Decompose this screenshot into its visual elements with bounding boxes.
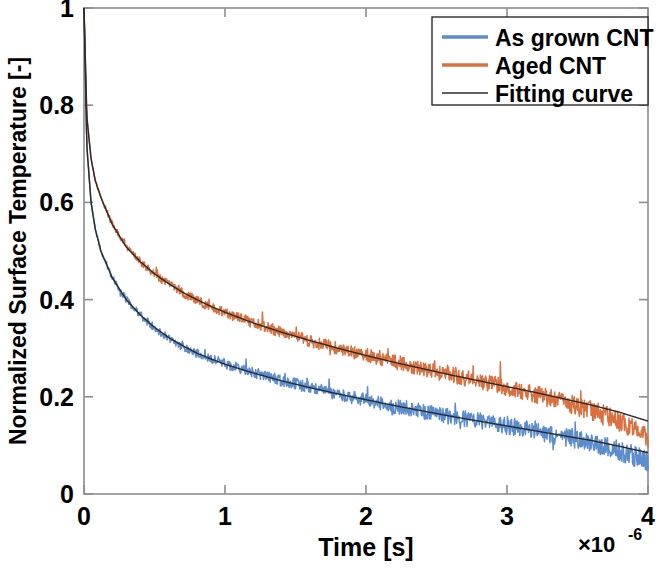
- x-tick-label: 1: [218, 502, 232, 530]
- x-tick-label: 0: [77, 502, 91, 530]
- legend-label-aged-cnt[interactable]: Aged CNT: [495, 53, 606, 79]
- y-axis-title: Normalized Surface Temperature [-]: [5, 57, 31, 445]
- y-tick-label: 0.2: [39, 383, 74, 411]
- y-tick-label: 0.4: [39, 286, 74, 314]
- figure-container: 01234 00.20.40.60.81 Time [s] Normalized…: [0, 0, 665, 571]
- x-axis-title: Time [s]: [318, 533, 413, 561]
- legend-label-fitting-curve[interactable]: Fitting curve: [495, 81, 633, 107]
- y-tick-label: 0.6: [39, 188, 74, 216]
- chart-canvas: 01234 00.20.40.60.81 Time [s] Normalized…: [0, 0, 665, 571]
- x-tick-label: 2: [359, 502, 373, 530]
- chart-legend[interactable]: As grown CNTAged CNTFitting curve: [432, 17, 653, 107]
- y-tick-label: 0.8: [39, 91, 74, 119]
- y-tick-label: 0: [60, 480, 74, 508]
- x-axis-exponent-superscript: -6: [628, 526, 642, 543]
- x-tick-label: 4: [641, 502, 655, 530]
- legend-label-as-grown-cnt[interactable]: As grown CNT: [495, 25, 653, 51]
- x-tick-label: 3: [500, 502, 514, 530]
- y-tick-label: 1: [60, 0, 74, 22]
- x-axis-exponent-base: ×10: [578, 532, 615, 557]
